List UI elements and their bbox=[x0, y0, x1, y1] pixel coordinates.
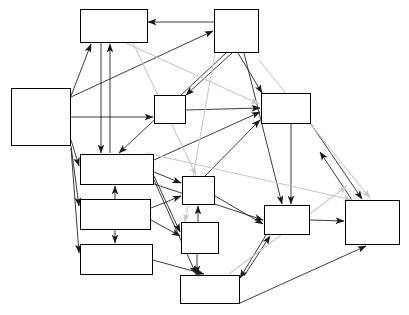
edge-family-history-to-parenting-behavior bbox=[71, 44, 91, 96]
node-parenting-behavior[interactable] bbox=[80, 9, 148, 43]
edge-layer bbox=[0, 0, 409, 315]
edge-temperament-to-school-failure bbox=[154, 172, 181, 183]
edge-pathological-cross-a-to-emotional-distress bbox=[320, 152, 352, 200]
node-family-history[interactable] bbox=[11, 88, 71, 146]
edge-temperament-to-pathological bbox=[146, 153, 352, 200]
edge-school-failure-to-peer-influence bbox=[215, 196, 263, 224]
node-emotional-distress[interactable] bbox=[261, 93, 311, 124]
node-temperament[interactable] bbox=[80, 154, 154, 185]
edge-ethanol-sensitivity-to-alcohol-expectancies bbox=[153, 260, 204, 274]
edge-active-parental-drinking-to-peer-influence bbox=[244, 53, 282, 204]
node-ethanol-sensitivity[interactable] bbox=[80, 244, 153, 275]
edge-family-history-to-ethanol-sensitivity bbox=[71, 148, 79, 253]
node-alcohol-expectancies[interactable] bbox=[180, 275, 240, 304]
path-diagram bbox=[0, 0, 409, 315]
node-coping-ability[interactable] bbox=[181, 222, 219, 254]
edge-peer-influence-to-pathological bbox=[310, 220, 344, 221]
node-active-parental-drinking[interactable] bbox=[214, 9, 259, 53]
node-peer-influence[interactable] bbox=[264, 205, 310, 235]
edge-active-parental-drinking-to-emotional-distress bbox=[238, 53, 262, 93]
node-cognitive-dysfunction[interactable] bbox=[80, 199, 151, 230]
node-pathological[interactable] bbox=[345, 200, 400, 245]
edge-school-failure-to-emotional-distress bbox=[205, 120, 260, 176]
edge-alcohol-expectancies-to-pathological bbox=[240, 246, 366, 303]
edge-life-stress-to-emotional-distress bbox=[186, 108, 260, 110]
node-school-failure[interactable] bbox=[182, 176, 215, 205]
node-life-stress[interactable] bbox=[154, 95, 186, 124]
edge-emotional-distress-to-pathological bbox=[311, 124, 362, 199]
edge-alcohol-expectancies-to-peer-influence bbox=[244, 236, 270, 276]
